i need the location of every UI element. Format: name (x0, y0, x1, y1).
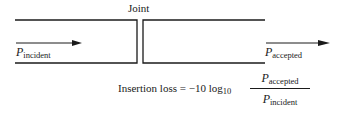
joint-label: Joint (128, 2, 149, 14)
accepted-subscript: accepted (272, 50, 302, 60)
fraction-denominator: Pincident (250, 91, 310, 107)
formula-lhs: Insertion loss = −10 log (118, 82, 223, 94)
joint-label-text: Joint (128, 2, 149, 14)
denominator-subscript: incident (270, 97, 297, 107)
power-ratio-fraction: Paccepted Pincident (250, 70, 310, 107)
incident-subscript: incident (23, 50, 50, 60)
numerator-subscript: accepted (269, 76, 299, 86)
incident-power-label: Pincident (16, 45, 51, 60)
fraction-numerator: Paccepted (250, 70, 310, 86)
insertion-loss-formula: Insertion loss = −10 log10 (118, 82, 231, 94)
formula-log-base: 10 (223, 86, 232, 96)
fraction-bar (250, 88, 310, 89)
accepted-power-label: Paccepted (265, 45, 302, 60)
numerator-symbol: P (261, 71, 268, 85)
denominator-symbol: P (263, 92, 270, 106)
right-fiber (143, 20, 265, 63)
